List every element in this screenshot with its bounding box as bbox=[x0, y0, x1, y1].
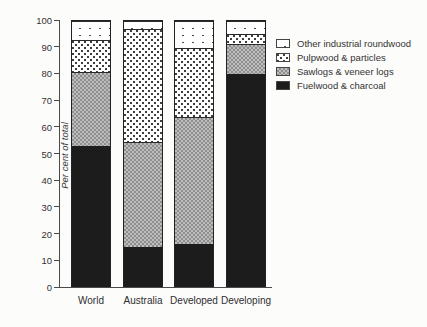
legend-label: Pulpwood & particles bbox=[297, 52, 386, 63]
y-tick-mark bbox=[54, 233, 60, 234]
y-tick-label: 80 bbox=[26, 68, 52, 79]
y-tick-label: 90 bbox=[26, 41, 52, 52]
category-label-world: World bbox=[63, 295, 119, 306]
y-tick-label: 60 bbox=[26, 121, 52, 132]
legend-entry: Sawlogs & veneer logs bbox=[276, 66, 411, 76]
segment-dense-dots bbox=[227, 34, 265, 43]
bar-developed bbox=[174, 20, 214, 287]
bar-australia bbox=[123, 20, 163, 287]
segment-gray-check bbox=[72, 72, 110, 146]
segment-gray-check bbox=[124, 142, 162, 247]
category-label-australia: Australia bbox=[115, 295, 171, 306]
y-tick-label: 20 bbox=[26, 228, 52, 239]
y-tick-mark bbox=[54, 206, 60, 207]
segment-solid-black bbox=[227, 74, 265, 287]
y-tick-mark bbox=[54, 260, 60, 261]
legend-label: Fuelwood & charcoal bbox=[297, 80, 386, 91]
plot-area: Per cent of total 0102030405060708090100… bbox=[59, 20, 272, 288]
chart-canvas: Per cent of total 0102030405060708090100… bbox=[0, 0, 427, 327]
legend-swatch-sparse-dots bbox=[276, 39, 290, 48]
segment-sparse-dots bbox=[124, 21, 162, 29]
y-tick-label: 0 bbox=[26, 282, 52, 293]
legend: Other industrial roundwoodPulpwood & par… bbox=[276, 38, 411, 94]
legend-entry: Pulpwood & particles bbox=[276, 52, 411, 62]
segment-solid-black bbox=[72, 146, 110, 287]
bar-world bbox=[71, 20, 111, 287]
y-tick-mark bbox=[54, 180, 60, 181]
y-tick-label: 40 bbox=[26, 175, 52, 186]
legend-swatch-solid-black bbox=[276, 81, 290, 90]
y-tick-mark bbox=[54, 100, 60, 101]
category-label-developed: Developed bbox=[166, 295, 222, 306]
segment-gray-check bbox=[175, 117, 213, 245]
category-label-developing: Developing bbox=[218, 295, 274, 306]
y-axis-label: Per cent of total bbox=[59, 106, 70, 206]
y-tick-mark bbox=[54, 287, 60, 288]
y-tick-label: 70 bbox=[26, 95, 52, 106]
legend-swatch-dense-dots bbox=[276, 53, 290, 62]
y-tick-label: 10 bbox=[26, 255, 52, 266]
y-tick-label: 50 bbox=[26, 148, 52, 159]
legend-entry: Fuelwood & charcoal bbox=[276, 80, 411, 90]
y-tick-mark bbox=[54, 73, 60, 74]
segment-sparse-dots bbox=[175, 21, 213, 48]
y-tick-label: 30 bbox=[26, 201, 52, 212]
y-tick-mark bbox=[54, 153, 60, 154]
y-tick-label: 100 bbox=[26, 15, 52, 26]
segment-sparse-dots bbox=[227, 21, 265, 34]
segment-gray-check bbox=[227, 44, 265, 75]
legend-label: Sawlogs & veneer logs bbox=[297, 66, 394, 77]
segment-dense-dots bbox=[72, 40, 110, 72]
legend-entry: Other industrial roundwood bbox=[276, 38, 411, 48]
legend-label: Other industrial roundwood bbox=[297, 38, 411, 49]
y-tick-mark bbox=[54, 20, 60, 21]
bar-developing bbox=[226, 20, 266, 287]
segment-dense-dots bbox=[175, 48, 213, 117]
y-tick-mark bbox=[54, 46, 60, 47]
y-tick-mark bbox=[54, 126, 60, 127]
segment-dense-dots bbox=[124, 29, 162, 142]
segment-solid-black bbox=[175, 244, 213, 287]
segment-sparse-dots bbox=[72, 21, 110, 40]
segment-solid-black bbox=[124, 247, 162, 287]
legend-swatch-gray-check bbox=[276, 67, 290, 76]
